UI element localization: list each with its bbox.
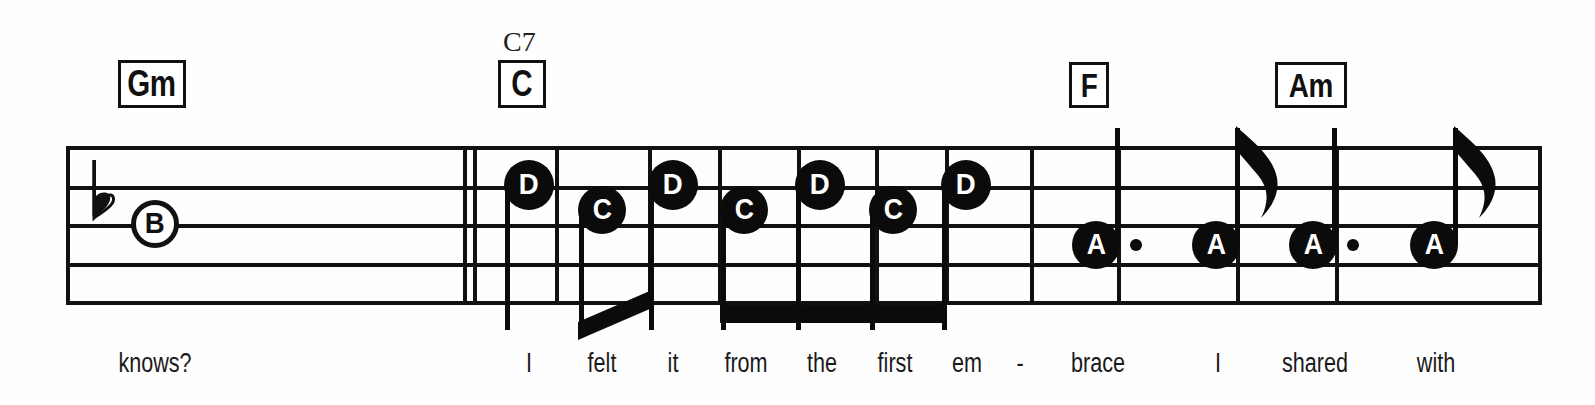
note-a-3: A <box>1289 221 1337 269</box>
note-d-2: D <box>648 160 698 210</box>
note-b-whole: B <box>131 200 179 248</box>
measure-1-end-barline-b <box>473 146 477 305</box>
flat-accidental <box>84 156 118 230</box>
note-a-1-augmentation-dot <box>1130 239 1142 251</box>
note-a-4-eighth-flag <box>1451 126 1511 230</box>
note-c-2: C <box>720 186 768 234</box>
note-a-1: A <box>1072 221 1120 269</box>
note-a-4: A <box>1410 221 1458 269</box>
note-c-1: C <box>578 186 626 234</box>
chord-am-label: Am <box>1289 68 1333 102</box>
note-a-2-eighth-flag <box>1233 126 1293 230</box>
note-a-3-label: A <box>1303 230 1322 259</box>
chord-c-alternate-label: C7 <box>503 28 536 56</box>
beat-divider-1 <box>555 146 559 305</box>
note-d-1-stem <box>505 185 510 330</box>
note-d-3: D <box>795 160 845 210</box>
lyric-with: with <box>1356 350 1516 377</box>
beam-horizontal-4note <box>720 305 945 323</box>
note-d-2-label: D <box>663 169 683 199</box>
note-a-3-stem <box>1332 128 1337 245</box>
chord-f-label: F <box>1081 68 1098 102</box>
staff-start-barline <box>66 146 70 305</box>
beam-slanted-c-d <box>578 290 656 348</box>
measure-2-end-barline <box>1030 146 1034 305</box>
staff-end-barline <box>1538 146 1542 305</box>
measure-1-end-barline-a <box>463 146 467 305</box>
note-c-2-label: C <box>734 195 753 224</box>
note-d-1: D <box>504 160 554 210</box>
note-a-2: A <box>1192 221 1240 269</box>
note-a-1-stem <box>1115 128 1120 245</box>
note-d-3-label: D <box>810 169 830 199</box>
chord-gm-label: Gm <box>128 66 176 102</box>
note-a-3-augmentation-dot <box>1347 239 1359 251</box>
music-sheet-canvas: BDCDCDCDAAAA GmCC7FAm knows?Ifeltitfromt… <box>0 0 1595 405</box>
chord-gm[interactable]: Gm <box>118 60 186 108</box>
chord-f[interactable]: F <box>1069 62 1109 108</box>
lyric-knows: knows? <box>75 350 235 377</box>
note-a-2-label: A <box>1206 230 1225 259</box>
staff-line-1 <box>66 146 1540 150</box>
chord-c[interactable]: C <box>498 60 546 108</box>
note-d-4-label: D <box>956 169 976 199</box>
note-c-1-label: C <box>592 195 611 224</box>
note-a-4-label: A <box>1424 230 1443 259</box>
note-a-1-label: A <box>1086 230 1105 259</box>
note-c-3: C <box>869 186 917 234</box>
chord-c-label: C <box>512 66 533 102</box>
note-c-3-label: C <box>883 195 902 224</box>
note-d-1-label: D <box>519 169 539 199</box>
chord-am[interactable]: Am <box>1275 62 1347 108</box>
note-d-4: D <box>941 160 991 210</box>
note-b-whole-label: B <box>145 208 165 238</box>
